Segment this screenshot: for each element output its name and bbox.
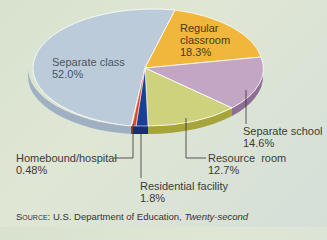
label-separate-school: Separate school 14.6% — [243, 125, 323, 149]
label-residential: Residential facility 1.8% — [140, 180, 228, 204]
label-regular-classroom: Regular classroom 18.3% — [180, 22, 230, 58]
label-resource-room: Resource room 12.7% — [208, 152, 286, 176]
slice-wall-residential — [133, 126, 148, 134]
source-note: Source: U.S. Department of Education, Tw… — [16, 211, 248, 222]
label-homebound: Homebound/hospital 0.48% — [16, 152, 117, 176]
label-separate-class: Separate class 52.0% — [52, 56, 125, 80]
